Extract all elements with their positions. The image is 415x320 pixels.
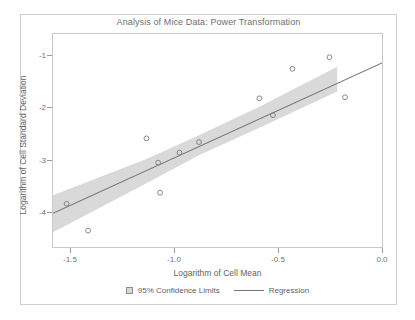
- x-tick-mark: [174, 248, 175, 253]
- x-tick-mark: [278, 248, 279, 253]
- plot-canvas: [53, 34, 382, 247]
- y-tick-label: -4: [39, 208, 46, 217]
- y-tick-label: -1: [39, 51, 46, 60]
- legend-item-regression: Regression: [234, 286, 309, 295]
- data-point: [290, 66, 295, 71]
- regression-line-swatch-icon: [234, 290, 264, 291]
- legend-item-confidence-limits: 95% Confidence Limits: [126, 286, 220, 295]
- y-axis-tick-labels: -1 -2 -3 -4: [30, 0, 46, 320]
- x-axis-title: Logarithm of Cell Mean: [52, 268, 383, 278]
- x-tick-label: -1.5: [63, 255, 77, 264]
- data-point: [144, 136, 149, 141]
- data-point: [327, 55, 332, 60]
- confidence-band: [53, 67, 337, 233]
- chart-title: Analysis of Mice Data: Power Transformat…: [20, 17, 397, 27]
- data-point: [86, 228, 91, 233]
- x-tick-label: 0.0: [376, 255, 387, 264]
- y-axis-title: Logarithm of Cell Standard Deviation: [18, 50, 28, 240]
- legend-label: Regression: [269, 286, 309, 295]
- plot-area: [52, 33, 383, 248]
- x-axis-tick-labels: -1.5 -1.0 -0.5 0.0: [0, 255, 415, 267]
- x-tick-label: -0.5: [271, 255, 285, 264]
- y-tick-label: -3: [39, 156, 46, 165]
- data-point: [257, 96, 262, 101]
- x-tick-mark: [382, 248, 383, 253]
- regression-line: [53, 63, 382, 213]
- chart-figure: Analysis of Mice Data: Power Transformat…: [0, 0, 415, 320]
- data-point: [158, 190, 163, 195]
- confidence-band-swatch-icon: [126, 287, 133, 294]
- x-tick-mark: [70, 248, 71, 253]
- chart-legend: 95% Confidence Limits Regression: [52, 286, 383, 295]
- x-tick-label: -1.0: [167, 255, 181, 264]
- y-tick-label: -2: [39, 103, 46, 112]
- data-point: [343, 95, 348, 100]
- legend-label: 95% Confidence Limits: [138, 286, 220, 295]
